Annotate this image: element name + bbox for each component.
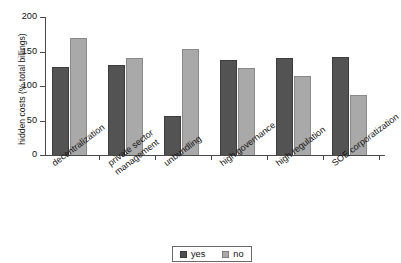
y-tick-100: 100 xyxy=(40,86,45,87)
bar-yes-5 xyxy=(332,57,349,155)
y-tick-label: 100 xyxy=(22,80,37,90)
y-tick-0: 0 xyxy=(40,155,45,156)
bar-yes-3 xyxy=(220,60,237,155)
legend-item-yes[interactable]: yes xyxy=(180,249,205,259)
x-tick-4 xyxy=(323,156,324,160)
legend-swatch-no xyxy=(222,251,229,258)
x-tick-0 xyxy=(99,156,100,160)
y-tick-200: 200 xyxy=(40,17,45,18)
bar-yes-0 xyxy=(52,67,69,155)
y-axis-line xyxy=(45,17,46,156)
legend-swatch-yes xyxy=(180,251,187,258)
x-tick-5 xyxy=(379,156,380,160)
x-tick-2 xyxy=(211,156,212,160)
legend-label: no xyxy=(233,249,243,259)
chart-title xyxy=(156,0,246,2)
x-tick-3 xyxy=(267,156,268,160)
y-tick-label: 50 xyxy=(27,115,37,125)
y-tick-label: 200 xyxy=(22,11,37,21)
y-tick-50: 50 xyxy=(40,121,45,122)
bar-yes-1 xyxy=(108,65,125,155)
legend-label: yes xyxy=(191,249,205,259)
x-tick-1 xyxy=(155,156,156,160)
legend-item-no[interactable]: no xyxy=(222,249,243,259)
legend: yesno xyxy=(172,246,252,262)
y-tick-label: 150 xyxy=(22,46,37,56)
y-tick-label: 0 xyxy=(32,149,37,159)
y-tick-150: 150 xyxy=(40,52,45,53)
bar-yes-4 xyxy=(276,58,293,155)
